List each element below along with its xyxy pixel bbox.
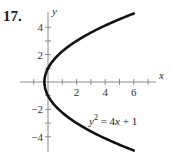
y-tick-label: 2	[38, 49, 44, 61]
x-tick-label: 6	[131, 86, 137, 98]
y-axis-label: y	[51, 5, 57, 17]
x-tick-label: 4	[102, 86, 108, 98]
equation-label: y2 = 4x + 1	[88, 113, 137, 127]
y-tick-label: −4	[31, 131, 43, 143]
x-axis-label: x	[158, 69, 164, 81]
y-tick-label: 4	[38, 21, 44, 33]
x-tick-label: 2	[74, 86, 80, 98]
parabola-figure: 17. 24642−2−4 x y y2 = 4x + 1	[0, 0, 170, 162]
y-tick-label: −2	[31, 103, 43, 115]
problem-number: 17.	[3, 8, 22, 24]
